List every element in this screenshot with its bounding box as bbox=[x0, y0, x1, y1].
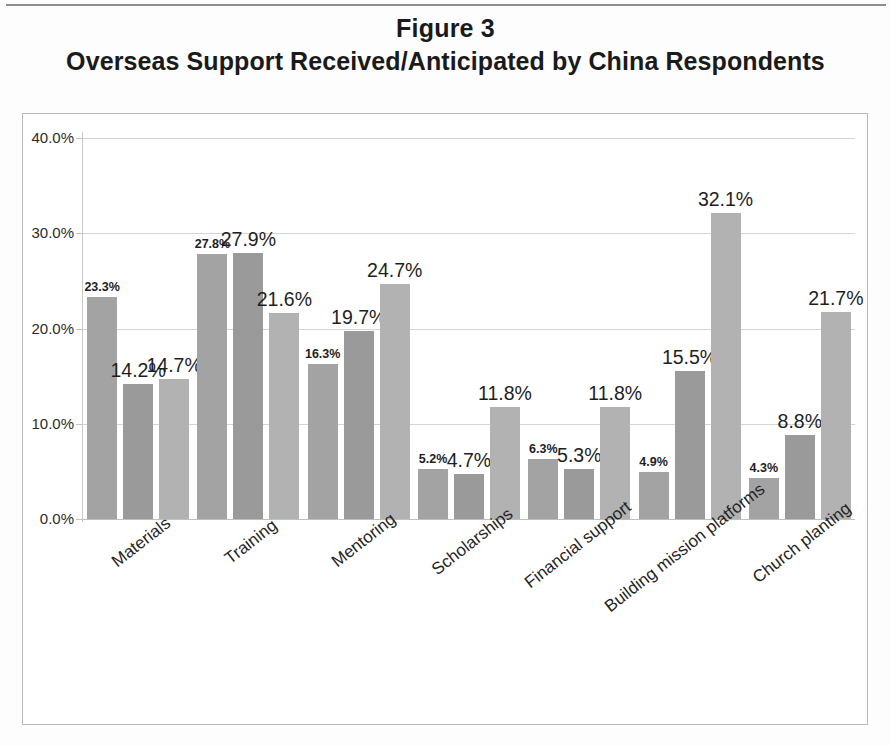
y-tick-mark bbox=[76, 329, 83, 330]
bar bbox=[269, 313, 299, 519]
bar-value-label: 11.8% bbox=[472, 382, 538, 405]
bars-layer: 23.3%14.2%14.7%27.8%27.9%21.6%16.3%19.7%… bbox=[83, 138, 855, 519]
y-tick-mark bbox=[76, 424, 83, 425]
figure-title: Figure 3 Overseas Support Received/Antic… bbox=[0, 12, 891, 78]
bar-value-label: 16.3% bbox=[300, 347, 346, 361]
bar bbox=[528, 459, 558, 519]
bar bbox=[639, 472, 669, 519]
bar bbox=[454, 474, 484, 519]
bar bbox=[87, 297, 117, 519]
bar-value-label: 21.6% bbox=[251, 288, 317, 311]
bar bbox=[197, 254, 227, 519]
bar-value-label: 21.7% bbox=[803, 287, 869, 310]
bar bbox=[159, 379, 189, 519]
y-tick-mark bbox=[76, 233, 83, 234]
figure-caption: Overseas Support Received/Anticipated by… bbox=[0, 44, 891, 78]
bar-value-label: 27.9% bbox=[215, 228, 281, 251]
bar bbox=[380, 284, 410, 519]
bar bbox=[675, 371, 705, 519]
y-tick-label: 30.0% bbox=[12, 224, 74, 241]
y-axis-labels: 0.0%10.0%20.0%30.0%40.0% bbox=[8, 138, 74, 519]
y-tick-mark bbox=[76, 519, 83, 520]
page-top-rule bbox=[6, 4, 886, 6]
y-tick-label: 10.0% bbox=[12, 415, 74, 432]
bar bbox=[821, 312, 851, 519]
bar-value-label: 23.3% bbox=[79, 280, 125, 294]
bar bbox=[564, 469, 594, 519]
bar-value-label: 4.9% bbox=[631, 455, 677, 469]
bar bbox=[344, 331, 374, 519]
bar bbox=[490, 407, 520, 519]
y-tick-label: 40.0% bbox=[12, 129, 74, 146]
bar bbox=[711, 213, 741, 519]
bar-value-label: 4.3% bbox=[741, 461, 787, 475]
bar bbox=[308, 364, 338, 519]
gridline-0.0 bbox=[83, 519, 855, 520]
figure-page: Figure 3 Overseas Support Received/Antic… bbox=[0, 0, 891, 746]
bar-value-label: 32.1% bbox=[693, 188, 759, 211]
bar-value-label: 11.8% bbox=[582, 382, 648, 405]
y-tick-mark bbox=[76, 138, 83, 139]
x-axis-labels: MaterialsTrainingMentoringScholarshipsFi… bbox=[83, 524, 855, 714]
bar bbox=[418, 469, 448, 519]
bar bbox=[123, 384, 153, 519]
y-tick-label: 0.0% bbox=[12, 510, 74, 527]
bar bbox=[785, 435, 815, 519]
y-tick-label: 20.0% bbox=[12, 320, 74, 337]
figure-number: Figure 3 bbox=[0, 12, 891, 44]
bar-value-label: 24.7% bbox=[362, 259, 428, 282]
x-tick-label: Training bbox=[221, 516, 281, 569]
